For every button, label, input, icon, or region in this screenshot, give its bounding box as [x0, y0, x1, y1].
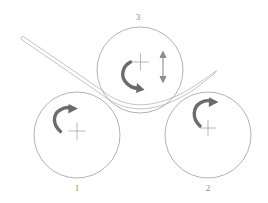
roll-3-arrow-body: [123, 62, 139, 88]
roll-3-rotation-arrow: [123, 62, 145, 93]
roll-1-rotation-arrow: [54, 104, 78, 132]
roll-2-center-mark: [200, 120, 217, 137]
roll-3-vertical-adjust-arrow: [160, 52, 166, 83]
roll-3-circle: [97, 27, 183, 113]
roll-3-center-mark: [132, 54, 149, 71]
roll-1-label: 1: [70, 184, 84, 193]
roll-2-rotation-arrow: [194, 97, 218, 126]
vertical-arrow-head-up: [160, 52, 166, 58]
roll-2-arrow-head: [209, 97, 219, 107]
roll-2-group: [165, 92, 251, 178]
vertical-arrow-head-down: [160, 77, 166, 83]
strip-edge-outer: [23, 36, 217, 105]
roll-3-group: [97, 27, 183, 113]
diagram-canvas: [0, 0, 268, 203]
roll-1-center-mark: [69, 123, 86, 140]
sheet-metal-strip: [21, 36, 217, 109]
strip-entry-end-cap: [21, 36, 23, 39]
roll-3-label: 3: [131, 13, 145, 22]
roll-1-group: [34, 92, 120, 178]
roll-3-arrow-head: [136, 83, 145, 93]
three-roll-bending-diagram: 1 2 3: [0, 0, 268, 203]
roll-2-label: 2: [201, 184, 215, 193]
roll-1-arrow-head: [68, 104, 78, 114]
